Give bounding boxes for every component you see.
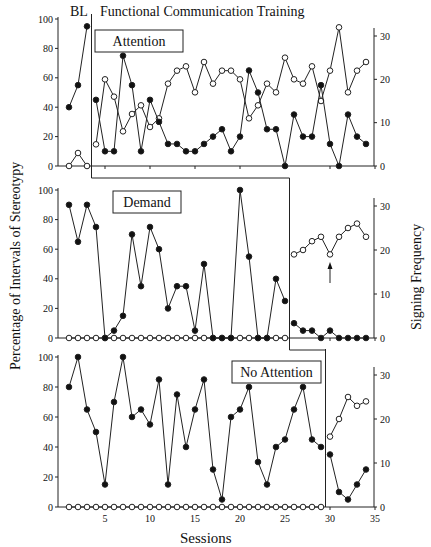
stereotypy-point xyxy=(255,90,261,96)
y-right-tick-label: 10 xyxy=(380,458,390,469)
signing-point xyxy=(228,68,234,74)
y-left-tick-label: 80 xyxy=(43,214,53,225)
signing-point xyxy=(129,504,135,510)
stereotypy-point xyxy=(246,384,252,390)
signing-point xyxy=(354,68,360,74)
signing-point xyxy=(120,129,126,135)
stereotypy-point xyxy=(165,306,171,312)
stereotypy-point xyxy=(93,429,99,435)
signing-point xyxy=(174,504,180,510)
signing-point xyxy=(237,335,243,341)
signing-point xyxy=(345,225,351,231)
stereotypy-point xyxy=(354,482,360,488)
signing-point xyxy=(246,335,252,341)
signing-line xyxy=(330,397,366,437)
baseline-phase-label: BL xyxy=(70,4,88,19)
stereotypy-point xyxy=(282,163,288,169)
signing-point xyxy=(165,81,171,87)
stereotypy-point xyxy=(156,246,162,252)
signing-point xyxy=(183,504,189,510)
stereotypy-point xyxy=(300,134,306,140)
stereotypy-point xyxy=(129,82,135,88)
stereotypy-point xyxy=(264,126,270,132)
signing-point xyxy=(345,394,351,400)
stereotypy-point xyxy=(156,377,162,383)
stereotypy-point xyxy=(210,335,216,341)
x-axis-label: Sessions xyxy=(180,530,232,546)
signing-point xyxy=(156,335,162,341)
signing-point xyxy=(219,504,225,510)
signing-arrow-icon xyxy=(328,262,333,269)
stereotypy-point xyxy=(363,141,369,147)
signing-point xyxy=(111,335,117,341)
signing-point xyxy=(93,142,99,148)
stereotypy-point xyxy=(327,141,333,147)
y-left-tick-label: 0 xyxy=(48,161,53,172)
stereotypy-point xyxy=(255,459,261,465)
stereotypy-point xyxy=(129,232,135,238)
signing-point xyxy=(354,221,360,227)
stereotypy-point xyxy=(120,53,126,59)
phase-staircase-line xyxy=(92,178,290,182)
stereotypy-point xyxy=(237,134,243,140)
y-left-tick-label: 0 xyxy=(48,333,53,344)
stereotypy-point xyxy=(192,328,198,334)
stereotypy-point xyxy=(102,335,108,341)
signing-point xyxy=(201,335,207,341)
stereotypy-point xyxy=(354,335,360,341)
signing-point xyxy=(336,416,342,422)
stereotypy-point xyxy=(174,392,180,398)
signing-point xyxy=(111,94,117,100)
signing-point xyxy=(201,59,207,65)
panel-demand: 0204060801000102030Demand xyxy=(38,182,390,350)
y-right-tick-label: 30 xyxy=(380,201,390,212)
signing-point xyxy=(66,335,72,341)
x-tick-label: 30 xyxy=(325,513,335,524)
signing-point xyxy=(255,103,261,109)
stereotypy-point xyxy=(237,407,243,413)
stereotypy-point xyxy=(309,437,315,443)
condition-label: Attention xyxy=(113,34,166,49)
signing-point xyxy=(336,25,342,31)
stereotypy-point xyxy=(93,97,99,103)
signing-point xyxy=(147,124,153,130)
signing-point xyxy=(192,335,198,341)
signing-point xyxy=(129,335,135,341)
stereotypy-point xyxy=(183,444,189,450)
signing-point xyxy=(273,504,279,510)
stereotypy-point xyxy=(327,452,333,458)
signing-point xyxy=(156,504,162,510)
y-left-tick-label: 60 xyxy=(43,412,53,423)
signing-point xyxy=(345,90,351,96)
signing-point xyxy=(318,504,324,510)
y-axis-right-label: Signing Frequency xyxy=(409,224,424,330)
y-right-tick-label: 10 xyxy=(380,289,390,300)
signing-point xyxy=(363,59,369,65)
stereotypy-point xyxy=(66,104,72,110)
signing-point xyxy=(174,68,180,74)
signing-point xyxy=(363,234,369,240)
stereotypy-point xyxy=(255,335,261,341)
stereotypy-point xyxy=(120,313,126,319)
stereotypy-point xyxy=(210,134,216,140)
stereotypy-point xyxy=(345,497,351,503)
stereotypy-point xyxy=(201,377,207,383)
signing-point xyxy=(264,504,270,510)
stereotypy-point xyxy=(66,202,72,208)
stereotypy-point xyxy=(111,149,117,155)
signing-point xyxy=(93,335,99,341)
signing-point xyxy=(273,90,279,96)
signing-point xyxy=(75,335,81,341)
y-right-tick-label: 20 xyxy=(380,245,390,256)
stereotypy-line xyxy=(69,26,87,107)
y-left-tick-label: 0 xyxy=(48,502,53,513)
y-right-tick-label: 30 xyxy=(380,370,390,381)
signing-point xyxy=(75,504,81,510)
signing-point xyxy=(66,163,72,169)
y-left-tick-label: 80 xyxy=(43,382,53,393)
signing-point xyxy=(138,504,144,510)
signing-point xyxy=(264,81,270,87)
x-tick-label: 20 xyxy=(235,513,245,524)
x-tick-label: 15 xyxy=(190,513,200,524)
stereotypy-point xyxy=(291,407,297,413)
